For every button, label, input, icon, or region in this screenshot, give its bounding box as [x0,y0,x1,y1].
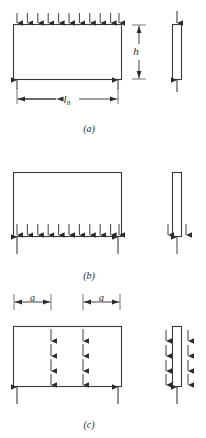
panel-c-reactions [17,387,118,404]
panel-c-offset-dimension-right: a [83,292,120,311]
span-label: ln [64,93,71,108]
panel-a-beam-plan [14,25,122,80]
panel-b-reactions [17,237,118,254]
panel-c-offset-dimension-left: a [14,292,51,311]
panel-c-beam-plan [14,327,122,387]
panel-c-caption: (c) [83,419,95,431]
panel-c-beam-section [173,327,182,387]
panel-c: a a [14,292,189,432]
panel-a: ln h (a) [14,11,182,135]
panel-b: (b) [14,173,187,283]
structural-load-diagram: ln h (a) [0,0,206,438]
panel-a-caption: (a) [83,123,95,135]
panel-a-beam-section [173,25,182,80]
panel-b-beam-section [173,173,182,237]
offset-label-right: a [99,292,104,303]
panel-b-beam-plan [14,173,122,237]
panel-a-distributed-load-top [17,13,119,23]
panel-a-reactions [17,80,118,89]
offset-label-left: a [30,292,35,303]
panel-a-depth-dimension: h [132,25,146,79]
panel-b-caption: (b) [83,270,95,282]
depth-label: h [133,45,139,57]
panel-a-span-dimension: ln [17,88,118,107]
